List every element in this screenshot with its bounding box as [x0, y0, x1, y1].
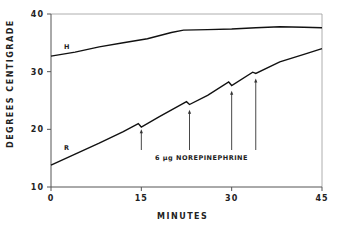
y-tick-label: 40	[31, 10, 44, 19]
curve-label-h: H	[64, 43, 69, 51]
x-ticks: 0153045	[48, 187, 329, 203]
injection-arrows	[140, 79, 258, 150]
chart: 10203040 0153045 MINUTES DEGREES CENTIGR…	[0, 0, 339, 229]
arrow-up-icon	[188, 110, 191, 114]
x-tick-label: 15	[135, 194, 148, 203]
x-tick-label: 0	[48, 194, 55, 203]
y-axis-label: DEGREES CENTIGRADE	[6, 19, 15, 148]
series-h-line	[51, 27, 322, 56]
x-tick-label: 30	[225, 194, 238, 203]
x-axis-label: MINUTES	[157, 212, 208, 221]
y-tick-label: 30	[31, 68, 44, 77]
annotation-norepinephrine: 6 µg NOREPINEPHRINE	[155, 154, 248, 162]
y-tick-label: 10	[31, 183, 44, 192]
series-r-line	[51, 49, 322, 166]
y-tick-label: 20	[31, 125, 44, 134]
arrow-up-icon	[140, 129, 143, 133]
arrow-up-icon	[254, 79, 257, 83]
arrow-up-icon	[230, 91, 233, 95]
curve-label-r: R	[64, 144, 69, 152]
x-tick-label: 45	[315, 194, 328, 203]
y-ticks: 10203040	[31, 10, 51, 192]
